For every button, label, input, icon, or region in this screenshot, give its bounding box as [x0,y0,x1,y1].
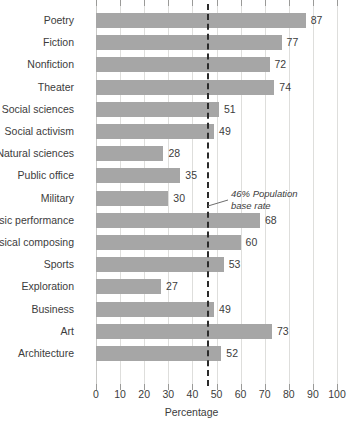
bar-value-label: 27 [166,278,178,294]
bar [96,346,221,361]
x-axis-title-text: Percentage [131,406,219,418]
bar-row: Musical composing60 [96,232,337,254]
x-tick-label-80: 80 [283,388,295,400]
tick-top-90 [313,0,314,6]
x-axis-title: Percentage [0,406,349,418]
category-label: Architecture [18,345,74,361]
bar [96,324,272,339]
bar-chart: Poetry87Fiction77Nonfiction72Theater74So… [0,0,349,430]
category-label: Natural sciences [0,145,74,161]
tick-top-50 [217,0,218,6]
category-label: Sports [44,256,74,272]
bar [96,168,180,183]
category-label: Musical composing [0,234,74,250]
x-tick-label-50: 50 [211,388,223,400]
category-label: Fiction [43,34,74,50]
tick-top-40 [192,0,193,6]
bar-value-label: 74 [279,79,291,95]
annotation-leader-line [208,199,229,207]
population-base-rate-annotation: 46% Population base rate [231,188,298,211]
x-tick-label-20: 20 [138,388,150,400]
bar-value-label: 72 [275,56,287,72]
bar-row: Exploration27 [96,276,337,298]
gridline-100 [337,6,338,384]
x-tick-label-70: 70 [259,388,271,400]
bar-value-label: 53 [229,256,241,272]
bar [96,302,214,317]
x-tick-label-0: 0 [93,388,99,400]
bar-row: Fiction77 [96,32,337,54]
bar-value-label: 30 [173,190,185,206]
bar-row: Social sciences51 [96,99,337,121]
tick-top-30 [168,0,169,6]
bar-value-label: 87 [311,12,323,28]
tick-top-20 [144,0,145,6]
bar-row: Business49 [96,299,337,321]
category-label: Public office [18,167,74,183]
bar-value-label: 35 [185,167,197,183]
bar-value-label: 51 [224,101,236,117]
x-tick-label-60: 60 [235,388,247,400]
category-label: Art [61,323,74,339]
annotation-line-2: base rate [231,200,298,212]
bar-row: Social activism49 [96,121,337,143]
bar-value-label: 77 [287,34,299,50]
bar-row: Theater74 [96,77,337,99]
category-label: Music performance [0,212,74,228]
bar [96,57,270,72]
bar [96,80,274,95]
tick-top-70 [265,0,266,6]
bar [96,279,161,294]
x-tick-label-30: 30 [162,388,174,400]
bar-row: Architecture52 [96,343,337,365]
bar-row: Nonfiction72 [96,54,337,76]
category-label: Theater [38,79,74,95]
bar-value-label: 28 [168,145,180,161]
tick-top-0 [96,0,97,6]
population-base-rate-line [207,4,209,386]
bar-row: Natural sciences28 [96,143,337,165]
category-label: Nonfiction [27,56,74,72]
x-tick-label-10: 10 [114,388,126,400]
bar [96,257,224,272]
bar-row: Art73 [96,321,337,343]
tick-top-100 [337,0,338,6]
annotation-line-1: 46% Population [231,188,298,200]
bar [96,35,282,50]
tick-top-60 [241,0,242,6]
bar-value-label: 73 [277,323,289,339]
bar-row: Public office35 [96,165,337,187]
bar [96,124,214,139]
bar [96,102,219,117]
bar-value-label: 60 [246,234,258,250]
bar [96,235,241,250]
bar-row: Poetry87 [96,10,337,32]
bar-value-label: 49 [219,123,231,139]
bar-row: Music performance68 [96,210,337,232]
bar-value-label: 52 [226,345,238,361]
x-tick-label-90: 90 [307,388,319,400]
bar [96,146,163,161]
bar-row: Sports53 [96,254,337,276]
tick-top-10 [120,0,121,6]
x-tick-label-40: 40 [187,388,199,400]
x-tick-label-100: 100 [328,388,346,400]
bar-value-label: 49 [219,301,231,317]
category-label: Exploration [21,278,74,294]
category-label: Social sciences [2,101,74,117]
bar-value-label: 68 [265,212,277,228]
tick-top-80 [289,0,290,6]
bar [96,191,168,206]
category-label: Business [31,301,74,317]
category-label: Poetry [44,12,74,28]
bar [96,213,260,228]
category-label: Social activism [5,123,74,139]
plot-area: Poetry87Fiction77Nonfiction72Theater74So… [96,6,337,384]
category-label: Military [41,190,74,206]
bar [96,13,306,28]
